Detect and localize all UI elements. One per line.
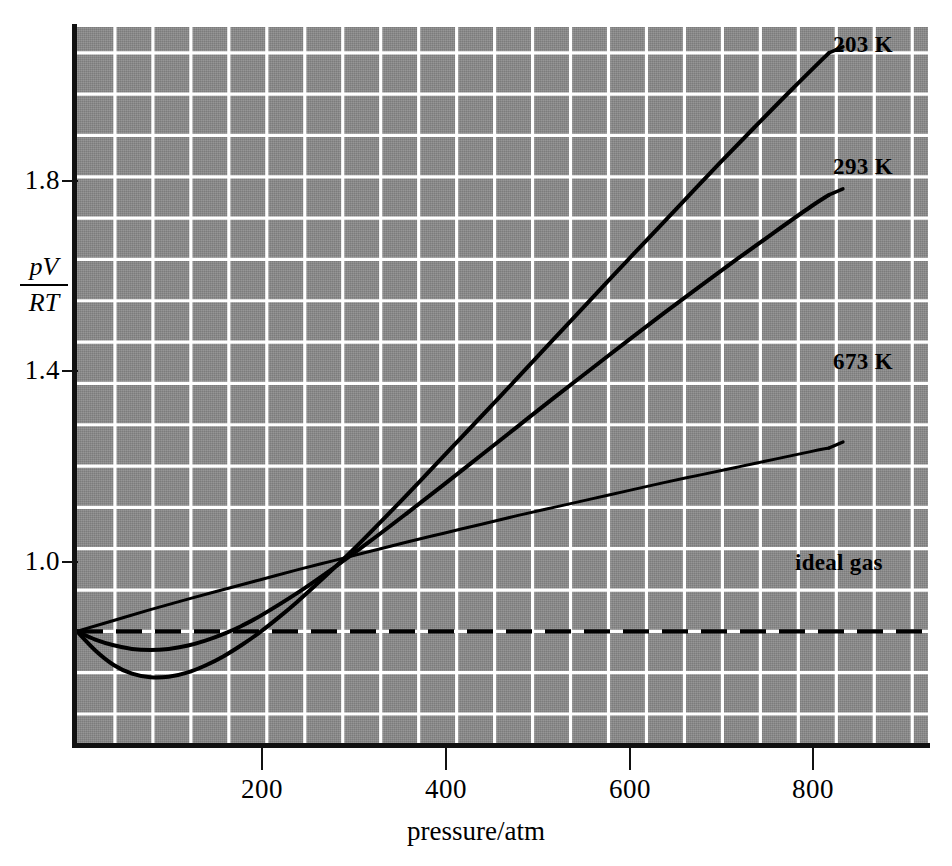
x-tick-label-800: 800 [792,776,834,803]
y-tick-label-1.0: 1.0 [0,548,60,575]
chart-page: 1.8 1.4 1.0 pV RT 200 400 600 800 pressu… [0,0,952,866]
y-tick-mark-1.4 [62,370,78,372]
y-tick-label-1.4: 1.4 [0,357,60,384]
x-tick-mark-400 [445,748,447,770]
fraction-bar [20,284,68,286]
ideal-gas-reference-label: ideal gas [795,551,883,574]
y-tick-mark-1.0 [62,561,78,563]
x-tick-label-400: 400 [425,776,467,803]
x-tick-label-200: 200 [241,776,283,803]
data-curves [77,27,928,745]
series-label-293k: 293 K [833,155,893,178]
x-axis-title: pressure/atm [0,816,952,846]
curve-203k [77,53,829,678]
x-tick-mark-600 [629,748,631,770]
y-axis-title: pV RT [20,252,68,318]
plot-area [77,27,928,745]
leader-293k [829,189,843,195]
y-axis-title-numerator: pV [20,252,68,283]
x-tick-mark-800 [812,748,814,770]
x-tick-label-600: 600 [609,776,651,803]
y-tick-label-1.8: 1.8 [0,167,60,194]
x-axis-spine [72,743,930,748]
y-axis-spine [72,24,77,748]
y-axis-title-denominator: RT [20,288,68,318]
y-tick-mark-1.8 [62,180,78,182]
x-tick-mark-200 [261,748,263,770]
series-label-673k: 673 K [833,350,893,373]
curve-293k [77,195,829,650]
leader-673k [829,442,843,448]
series-label-203k: 203 K [833,33,893,56]
